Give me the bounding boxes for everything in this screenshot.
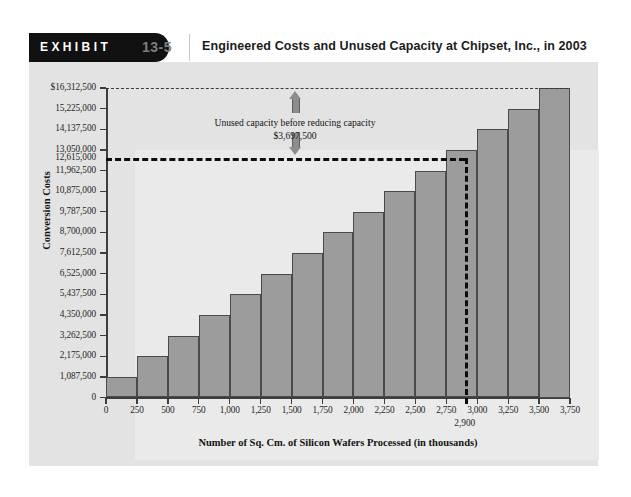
y-axis-tick <box>100 273 106 274</box>
bar <box>230 294 261 397</box>
y-axis-tick-label: 7,612,500 <box>8 247 96 257</box>
x-axis-tick-label: 500 <box>152 405 184 415</box>
unused-capacity-annotation: Unused capacity before reducing capacity… <box>190 116 400 142</box>
x-axis-tick-label: 3,000 <box>461 405 493 415</box>
x-axis-tick <box>167 398 168 404</box>
y-axis-tick-label: 1,087,500 <box>8 371 96 381</box>
bar <box>261 274 292 398</box>
y-axis-title: Conversion Costs <box>41 151 52 271</box>
x-axis-tick-label: 0 <box>90 405 122 415</box>
x-axis-tick <box>229 398 230 404</box>
y-axis-tick <box>100 191 106 192</box>
x-axis-tick <box>415 398 416 404</box>
y-axis-tick <box>100 149 106 150</box>
y-axis-tick <box>100 252 106 253</box>
upper-capacity-guide-line <box>106 88 568 89</box>
x-axis-tick-label: 3,750 <box>554 405 586 415</box>
x-axis-tick-label: 1,250 <box>245 405 277 415</box>
x-axis-tick <box>291 398 292 404</box>
x-axis-tick <box>569 398 570 404</box>
bar <box>508 109 539 398</box>
x-axis-tick-label: 2,250 <box>368 405 400 415</box>
y-axis-tick-label: 2,175,000 <box>8 350 96 360</box>
x-axis-title: Number of Sq. Cm. of Silicon Wafers Proc… <box>106 437 570 448</box>
actual-usage-label: 2,900 <box>447 418 483 428</box>
y-axis-tick-label: 0 <box>8 392 96 402</box>
exhibit-figure: EXHIBIT 13-5 Engineered Costs and Unused… <box>0 0 631 497</box>
x-axis-tick <box>105 398 106 404</box>
y-axis-tick <box>100 314 106 315</box>
exhibit-number: 13-5 <box>142 39 172 55</box>
y-axis-tick-label: 5,437,500 <box>8 288 96 298</box>
y-axis-tick-label: 6,525,000 <box>8 268 96 278</box>
y-axis-tick-label: 3,262,500 <box>8 330 96 340</box>
x-axis-tick <box>260 398 261 404</box>
x-axis-tick-label: 3,500 <box>523 405 555 415</box>
lower-capacity-guide-line <box>106 158 465 161</box>
exhibit-tag-label: EXHIBIT <box>40 40 111 54</box>
x-axis-tick-label: 1,750 <box>307 405 339 415</box>
y-axis-tick-label: $16,312,500 <box>8 82 96 92</box>
bar <box>539 88 570 398</box>
x-axis-tick-label: 2,750 <box>430 405 462 415</box>
x-axis-tick <box>508 398 509 404</box>
actual-usage-vertical-line <box>465 158 468 404</box>
unused-capacity-label: Unused capacity before reducing capacity <box>190 116 400 129</box>
bar <box>292 253 323 397</box>
x-axis-tick-label: 2,500 <box>399 405 431 415</box>
y-axis-tick <box>100 211 106 212</box>
y-axis-tick-label: 15,225,000 <box>8 103 96 113</box>
bar <box>477 129 508 397</box>
y-axis-tick <box>100 335 106 336</box>
y-axis-tick <box>100 356 106 357</box>
x-axis-tick-label: 2,000 <box>337 405 369 415</box>
x-axis-tick-label: 250 <box>121 405 153 415</box>
x-axis-tick <box>477 398 478 404</box>
y-axis-tick-label: 14,137,500 <box>8 123 96 133</box>
x-axis-tick <box>198 398 199 404</box>
y-axis-tick-label: 10,875,000 <box>8 185 96 195</box>
unused-capacity-amount: $3,697,500 <box>190 129 400 142</box>
x-axis-tick <box>322 398 323 404</box>
x-axis-tick-label: 750 <box>183 405 215 415</box>
y-axis-tick-label: 8,700,000 <box>8 226 96 236</box>
bar <box>168 336 199 398</box>
y-axis-tick <box>100 376 106 377</box>
bar <box>384 191 415 397</box>
y-axis-tick <box>100 129 106 130</box>
bar <box>323 232 354 397</box>
x-axis-tick <box>353 398 354 404</box>
x-axis-tick-label: 1,000 <box>214 405 246 415</box>
x-axis-tick-label: 1,500 <box>276 405 308 415</box>
bar <box>415 171 446 398</box>
bar <box>137 356 168 397</box>
bar <box>353 212 384 398</box>
arrow-up-icon <box>289 91 302 113</box>
exhibit-title: Engineered Costs and Unused Capacity at … <box>202 39 587 53</box>
bar <box>446 150 477 398</box>
x-axis-tick <box>538 398 539 404</box>
y-axis-tick-label: 9,787,500 <box>8 206 96 216</box>
x-axis-tick <box>136 398 137 404</box>
x-axis-tick <box>384 398 385 404</box>
y-axis-tick-label: 11,962,500 <box>8 165 96 175</box>
y-axis-tick <box>100 108 106 109</box>
y-axis-tick <box>100 232 106 233</box>
bar <box>199 315 230 398</box>
y-axis-tick <box>100 294 106 295</box>
y-axis-tick-label: 12,615,000 <box>8 152 96 162</box>
bar <box>106 377 137 398</box>
y-axis-tick <box>100 170 106 171</box>
y-axis-line <box>106 88 108 398</box>
x-axis-tick-label: 3,250 <box>492 405 524 415</box>
y-axis-tick-label: 4,350,000 <box>8 309 96 319</box>
exhibit-header: EXHIBIT 13-5 Engineered Costs and Unused… <box>29 33 598 62</box>
header-divider <box>189 34 190 61</box>
x-axis-tick <box>446 398 447 404</box>
